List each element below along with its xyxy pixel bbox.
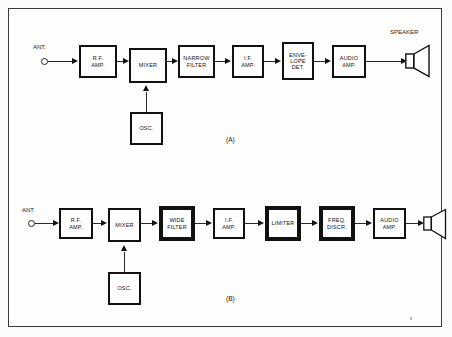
paper-speck: [410, 317, 412, 320]
diagram-b: ANT. R.F. AMP. MIXER WIDE FILTER I.F. AM…: [0, 0, 452, 337]
block-line: AMP.: [383, 224, 397, 230]
caption-b: (B): [226, 295, 235, 302]
block-line: AMP.: [222, 224, 236, 230]
wire-osc-to-mixer-b: [124, 252, 125, 272]
arrowhead-widefilter-ifamp-b: [206, 220, 212, 226]
block-line: MIXER: [115, 222, 133, 228]
block-limiter-b[interactable]: LIMITER: [265, 206, 301, 241]
block-audio-amp-b[interactable]: AUDIO AMP.: [373, 208, 406, 239]
block-freq-discr-b[interactable]: FREQ. DISCR.: [319, 206, 355, 241]
arrowhead-mixer-widefilter-b: [152, 220, 158, 226]
block-if-amp-b[interactable]: I.F. AMP.: [213, 208, 245, 239]
block-rf-amp-b[interactable]: R.F. AMP.: [59, 208, 93, 239]
block-line: OSC.: [117, 285, 131, 291]
block-wide-filter-b[interactable]: WIDE FILTER: [159, 206, 195, 241]
antenna-label-b: ANT.: [22, 207, 35, 213]
arrowhead-freqdiscr-audioamp-b: [366, 220, 372, 226]
arrowhead-osc-mixer-b: [121, 245, 127, 251]
block-mixer-b[interactable]: MIXER: [108, 208, 141, 242]
arrowhead-rfamp-mixer-b: [101, 220, 107, 226]
speaker-icon-b: [423, 208, 449, 240]
block-line: AMP.: [69, 224, 83, 230]
arrowhead-limiter-freqdiscr-b: [312, 220, 318, 226]
block-line: LIMITER: [271, 220, 294, 226]
wire-ifamp-to-limiter-b: [245, 223, 259, 224]
block-line: FILTER: [167, 224, 187, 230]
antenna-terminal-b: [28, 220, 35, 227]
figure-page: ANT. R.F. AMP. MIXER NARROW FILTER I.F. …: [0, 0, 452, 337]
block-line: DISCR.: [327, 224, 347, 230]
arrowhead-ifamp-limiter-b: [258, 220, 264, 226]
wire-ant-to-rfamp-b: [35, 223, 54, 224]
block-osc-b[interactable]: OSC.: [108, 272, 141, 305]
